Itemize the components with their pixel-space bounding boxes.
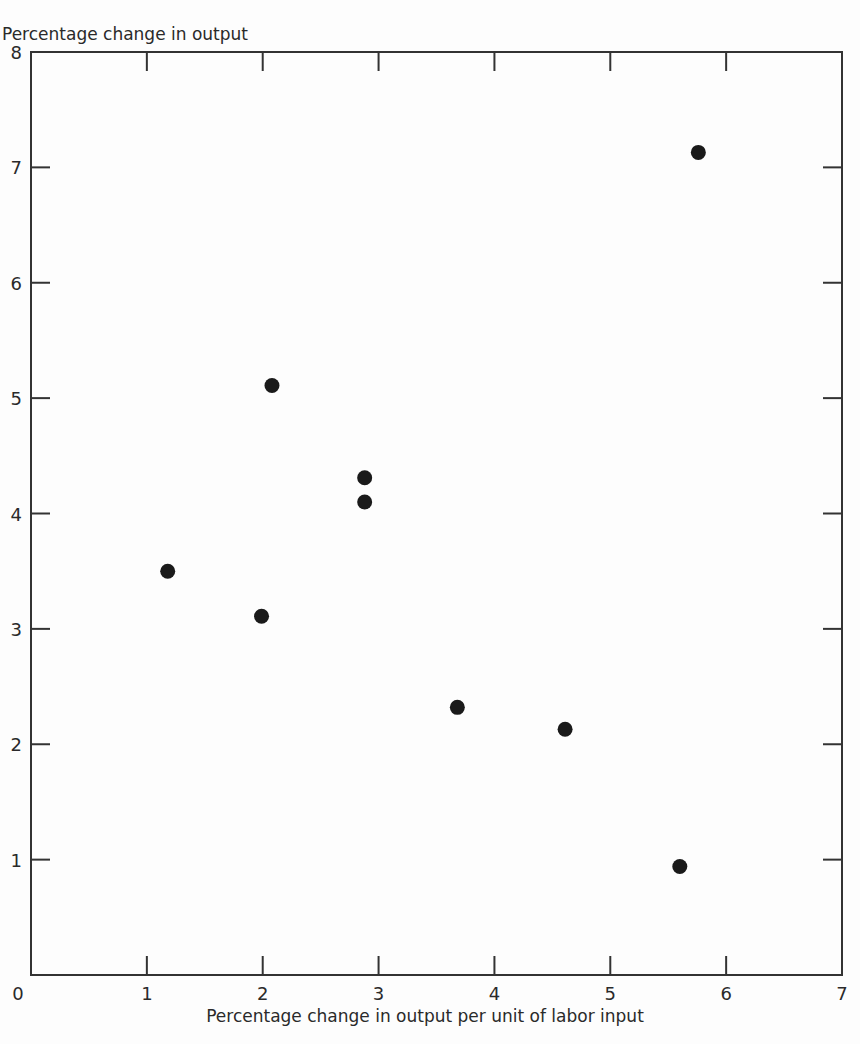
plot-frame	[31, 52, 842, 975]
scatter-chart: Percentage change in output 01234567 123…	[0, 0, 860, 1044]
x-tick-label: 1	[141, 983, 152, 1004]
data-point	[450, 700, 465, 715]
y-tick-labels: 12345678	[11, 42, 22, 871]
data-point	[357, 470, 372, 485]
x-tick-label: 7	[836, 983, 847, 1004]
y-tick-label: 6	[11, 273, 22, 294]
x-tick-label: 6	[720, 983, 731, 1004]
data-point	[254, 609, 269, 624]
y-tick-label: 1	[11, 850, 22, 871]
data-point	[672, 859, 687, 874]
data-point	[357, 494, 372, 509]
x-tick-label: 0	[12, 983, 23, 1004]
y-tick-label: 7	[11, 157, 22, 178]
y-tick-label: 8	[11, 42, 22, 63]
x-tick-label: 3	[373, 983, 384, 1004]
y-tick-label: 4	[11, 504, 22, 525]
x-tick-label: 4	[489, 983, 500, 1004]
data-point	[160, 564, 175, 579]
data-point	[264, 378, 279, 393]
data-point	[558, 722, 573, 737]
y-tick-label: 3	[11, 619, 22, 640]
x-tick-label: 2	[257, 983, 268, 1004]
x-axis-label: Percentage change in output per unit of …	[206, 1006, 644, 1026]
axis-ticks	[31, 52, 842, 975]
data-points	[160, 145, 706, 874]
x-tick-label: 5	[605, 983, 616, 1004]
y-tick-label: 2	[11, 734, 22, 755]
x-tick-labels: 01234567	[12, 983, 847, 1004]
y-tick-label: 5	[11, 388, 22, 409]
data-point	[691, 145, 706, 160]
y-axis-label: Percentage change in output	[2, 24, 248, 44]
